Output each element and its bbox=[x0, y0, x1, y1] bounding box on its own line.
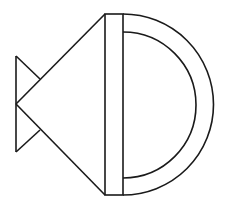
body-triangle bbox=[16, 14, 105, 195]
fish-diagram bbox=[0, 0, 226, 215]
inner-head-arc bbox=[123, 32, 196, 178]
tail-fin bbox=[16, 56, 40, 152]
divider-bar bbox=[105, 14, 123, 195]
outer-head-arc bbox=[123, 14, 214, 195]
